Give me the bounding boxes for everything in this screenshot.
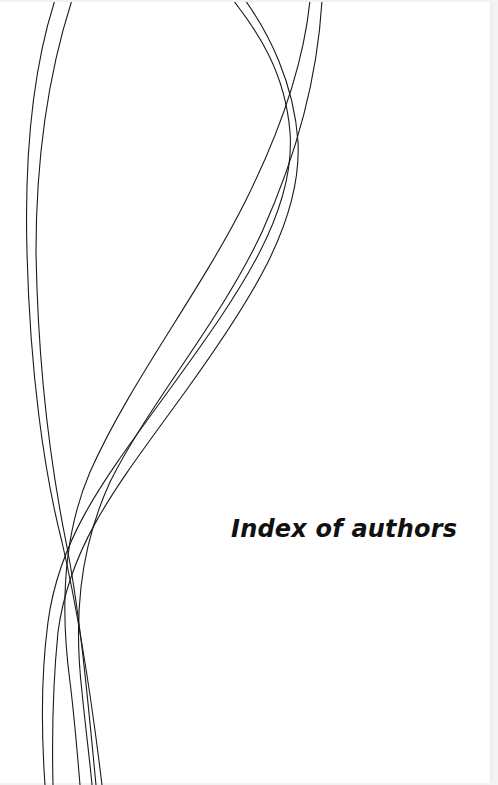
page-title: Index of authors [231,515,457,543]
curve-f [78,2,322,785]
decorative-curves [0,2,498,785]
curve-e [65,2,310,785]
book-page: Index of authors [0,2,490,783]
curve-b [36,2,96,785]
curve-d [53,2,299,785]
curve-a [27,2,102,785]
